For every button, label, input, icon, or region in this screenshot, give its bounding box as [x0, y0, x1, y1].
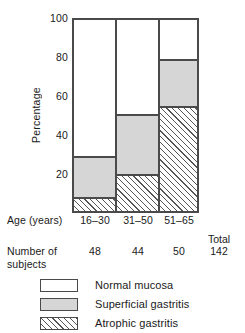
y-tick-label-60: 60: [44, 90, 68, 102]
bar-segment-atrophic-gastritis-16-30: [73, 198, 116, 212]
age-row: Age (years) 16–30 31–50 51–65: [0, 214, 245, 230]
y-tick-label-20: 20: [44, 168, 68, 180]
legend-swatch-normal-mucosa-icon: [40, 279, 78, 292]
age-category-31-50: 31–50: [115, 214, 161, 226]
bar-segment-superficial-gastritis-16-30: [73, 157, 116, 198]
bar-segment-atrophic-gastritis-31-50: [116, 175, 159, 212]
bar-segment-superficial-gastritis-51-65: [159, 60, 198, 107]
plot-area: [72, 18, 199, 213]
legend-item-atrophic-gastritis: Atrophic gastritis: [40, 315, 240, 333]
age-category-51-65: 51–65: [156, 214, 202, 226]
legend-label-normal-mucosa: Normal mucosa: [95, 278, 173, 293]
legend-item-normal-mucosa: Normal mucosa: [40, 277, 240, 295]
x-axis-title: Age (years): [7, 214, 62, 226]
subject-count-total: 142: [196, 245, 242, 257]
bar-age-31-50[interactable]: [116, 19, 159, 212]
bar-segment-superficial-gastritis-31-50: [116, 115, 159, 175]
y-tick-label-80: 80: [44, 51, 68, 63]
y-tick-label-40: 40: [44, 129, 68, 141]
age-category-16-30: 16–30: [72, 214, 118, 226]
legend-label-superficial-gastritis: Superficial gastritis: [95, 297, 189, 312]
y-tick-label-100: 100: [44, 12, 68, 24]
y-axis-title: Percentage: [30, 63, 46, 167]
legend: Normal mucosa Superficial gastritis Atro…: [40, 277, 240, 333]
bar-segment-normal-mucosa-31-50: [116, 19, 159, 115]
bar-age-16-30[interactable]: [73, 19, 116, 212]
bar-age-51-65[interactable]: [159, 19, 198, 212]
stacked-bar-chart-figure: Percentage 100 80 60 40 20 Age (ye: [0, 0, 245, 333]
subject-count-16-30: 48: [72, 245, 118, 257]
subject-count-label: Number of subjects: [7, 245, 69, 271]
bar-segment-normal-mucosa-16-30: [73, 19, 116, 157]
bar-segment-atrophic-gastritis-51-65: [159, 107, 198, 212]
bar-segment-normal-mucosa-51-65: [159, 19, 198, 60]
legend-item-superficial-gastritis: Superficial gastritis: [40, 296, 240, 314]
subject-count-31-50: 44: [115, 245, 161, 257]
legend-label-atrophic-gastritis: Atrophic gastritis: [95, 316, 178, 331]
legend-swatch-superficial-gastritis-icon: [40, 298, 78, 311]
legend-swatch-atrophic-gastritis-icon: [40, 317, 78, 330]
total-header-label: Total: [196, 233, 242, 245]
